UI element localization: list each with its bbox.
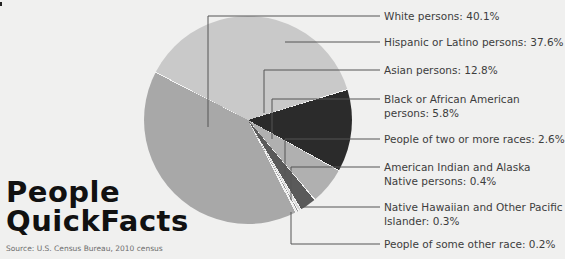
label-black: Black or African Americanpersons: 5.8% bbox=[384, 92, 520, 120]
leader-two-or-more bbox=[285, 139, 380, 176]
leader-american-indian bbox=[291, 167, 380, 200]
label-nhpi: Native Hawaiian and Other PacificIslande… bbox=[384, 200, 563, 228]
label-other: People of some other race: 0.2% bbox=[384, 237, 555, 251]
label-american-indian: American Indian and AlaskaNative persons… bbox=[384, 160, 531, 188]
label-hispanic: Hispanic or Latino persons: 37.6% bbox=[384, 35, 564, 49]
leader-asian bbox=[264, 70, 380, 113]
source-note: Source: U.S. Census Bureau, 2010 census bbox=[6, 244, 163, 253]
page-title: People QuickFacts bbox=[6, 178, 189, 236]
leader-black bbox=[272, 99, 380, 139]
leader-white bbox=[208, 16, 380, 127]
label-white: White persons: 40.1% bbox=[384, 9, 500, 23]
title-line-1: People bbox=[6, 178, 189, 207]
leader-other bbox=[291, 212, 380, 244]
label-asian: Asian persons: 12.8% bbox=[384, 63, 498, 77]
label-two-or-more: People of two or more races: 2.6% bbox=[384, 132, 565, 146]
title-line-2: QuickFacts bbox=[6, 207, 189, 236]
